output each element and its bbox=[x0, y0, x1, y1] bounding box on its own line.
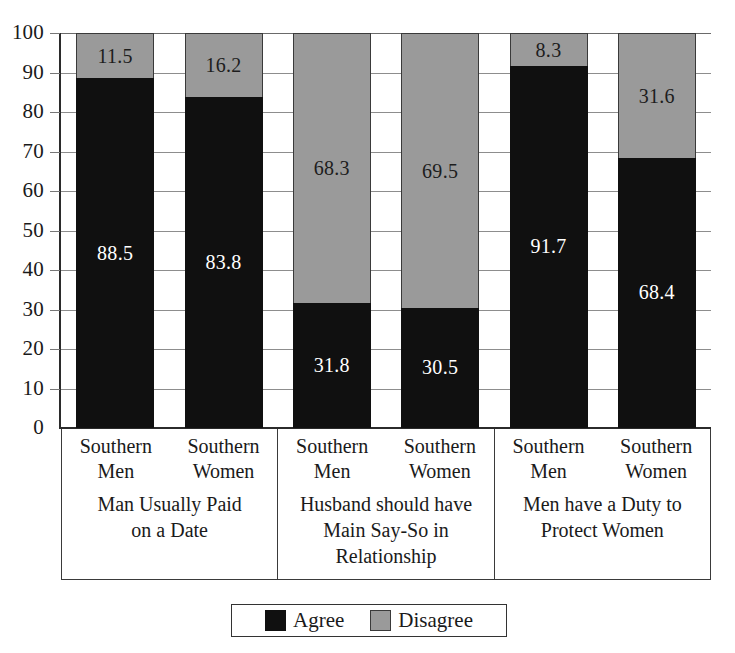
bar-segment-disagree[interactable]: 69.5 bbox=[401, 33, 479, 308]
category-sublabel: SouthernWomen bbox=[170, 429, 278, 491]
bar-segment-disagree[interactable]: 8.3 bbox=[510, 33, 588, 66]
category-table: SouthernMenSouthernWomenMan Usually Paid… bbox=[61, 429, 711, 580]
y-tick-mark bbox=[50, 231, 60, 232]
bar-value-label: 88.5 bbox=[77, 243, 153, 263]
category-group-title: Men have a Duty toProtect Women bbox=[495, 491, 710, 543]
bar-value-label: 69.5 bbox=[402, 161, 478, 181]
legend-swatch-icon bbox=[265, 610, 286, 631]
bar-value-label: 91.7 bbox=[511, 236, 587, 256]
category-sublabel: SouthernMen bbox=[62, 429, 170, 491]
bar-value-label: 8.3 bbox=[511, 40, 587, 60]
gridline bbox=[61, 33, 711, 34]
category-subrow: SouthernMenSouthernWomen bbox=[495, 429, 710, 491]
plot-area: 11.588.516.283.868.331.869.530.58.391.73… bbox=[61, 33, 711, 428]
bar-value-label: 30.5 bbox=[402, 357, 478, 377]
y-tick-label: 0 bbox=[0, 417, 44, 438]
y-tick-label: 70 bbox=[0, 141, 44, 162]
bar-segment-agree[interactable]: 30.5 bbox=[401, 308, 479, 428]
category-group-title: Husband should haveMain Say-So inRelatio… bbox=[278, 491, 493, 569]
category-subrow: SouthernMenSouthernWomen bbox=[62, 429, 277, 491]
y-tick-mark bbox=[50, 112, 60, 113]
y-tick-label: 30 bbox=[0, 299, 44, 320]
bar-segment-disagree[interactable]: 16.2 bbox=[185, 33, 263, 97]
category-sublabel: SouthernWomen bbox=[602, 429, 710, 491]
category-group: SouthernMenSouthernWomenMen have a Duty … bbox=[495, 429, 710, 579]
bar-value-label: 68.4 bbox=[619, 282, 695, 302]
legend-label: Disagree bbox=[398, 610, 473, 631]
y-tick-mark bbox=[50, 191, 60, 192]
category-group-title: Man Usually Paidon a Date bbox=[62, 491, 277, 543]
gridline bbox=[61, 231, 711, 232]
category-group: SouthernMenSouthernWomenHusband should h… bbox=[278, 429, 494, 579]
gridline bbox=[61, 270, 711, 271]
legend-item[interactable]: Agree bbox=[265, 610, 344, 631]
category-sublabel: SouthernMen bbox=[495, 429, 603, 491]
stacked-bar-chart: 1009080706050403020100 11.588.516.283.86… bbox=[0, 0, 735, 653]
bar-segment-agree[interactable]: 91.7 bbox=[510, 66, 588, 428]
bar-stack[interactable]: 16.283.8 bbox=[185, 33, 263, 428]
bar-stack[interactable]: 31.668.4 bbox=[618, 33, 696, 428]
y-tick-label: 20 bbox=[0, 338, 44, 359]
bar-value-label: 68.3 bbox=[294, 158, 370, 178]
gridline bbox=[61, 310, 711, 311]
y-tick-label: 40 bbox=[0, 259, 44, 280]
gridline bbox=[61, 73, 711, 74]
bar-value-label: 31.6 bbox=[619, 86, 695, 106]
bar-segment-disagree[interactable]: 31.6 bbox=[618, 33, 696, 158]
bar-segment-agree[interactable]: 83.8 bbox=[185, 97, 263, 428]
category-group: SouthernMenSouthernWomenMan Usually Paid… bbox=[62, 429, 278, 579]
y-tick-mark bbox=[50, 33, 60, 34]
y-tick-label: 10 bbox=[0, 378, 44, 399]
y-tick-mark bbox=[50, 73, 60, 74]
legend-label: Agree bbox=[293, 610, 344, 631]
y-tick-label: 60 bbox=[0, 180, 44, 201]
legend-item[interactable]: Disagree bbox=[370, 610, 473, 631]
category-subrow: SouthernMenSouthernWomen bbox=[278, 429, 493, 491]
bar-segment-disagree[interactable]: 11.5 bbox=[76, 33, 154, 78]
bar-value-label: 11.5 bbox=[77, 46, 153, 66]
bar-value-label: 16.2 bbox=[186, 55, 262, 75]
y-tick-mark bbox=[50, 152, 60, 153]
y-tick-label: 100 bbox=[0, 22, 44, 43]
y-tick-mark bbox=[50, 270, 60, 271]
bar-segment-disagree[interactable]: 68.3 bbox=[293, 33, 371, 303]
category-sublabel: SouthernWomen bbox=[386, 429, 494, 491]
bar-segment-agree[interactable]: 88.5 bbox=[76, 78, 154, 428]
y-tick-label: 80 bbox=[0, 101, 44, 122]
y-tick-mark bbox=[50, 389, 60, 390]
category-sublabel: SouthernMen bbox=[278, 429, 386, 491]
gridline bbox=[61, 349, 711, 350]
y-axis: 1009080706050403020100 bbox=[0, 0, 44, 440]
bar-stack[interactable]: 68.331.8 bbox=[293, 33, 371, 428]
bar-value-label: 31.8 bbox=[294, 355, 370, 375]
legend-swatch-icon bbox=[370, 610, 391, 631]
y-tick-mark bbox=[50, 349, 60, 350]
gridline bbox=[61, 152, 711, 153]
gridline bbox=[61, 389, 711, 390]
y-tick-label: 90 bbox=[0, 62, 44, 83]
bar-stack[interactable]: 11.588.5 bbox=[76, 33, 154, 428]
y-tick-mark bbox=[50, 310, 60, 311]
gridline bbox=[61, 191, 711, 192]
bar-stack[interactable]: 8.391.7 bbox=[510, 33, 588, 428]
gridline bbox=[61, 112, 711, 113]
bar-segment-agree[interactable]: 31.8 bbox=[293, 303, 371, 428]
bar-value-label: 83.8 bbox=[186, 252, 262, 272]
y-tick-label: 50 bbox=[0, 220, 44, 241]
chart-legend: AgreeDisagree bbox=[231, 604, 507, 637]
bar-segment-agree[interactable]: 68.4 bbox=[618, 158, 696, 428]
bar-stack[interactable]: 69.530.5 bbox=[401, 33, 479, 428]
